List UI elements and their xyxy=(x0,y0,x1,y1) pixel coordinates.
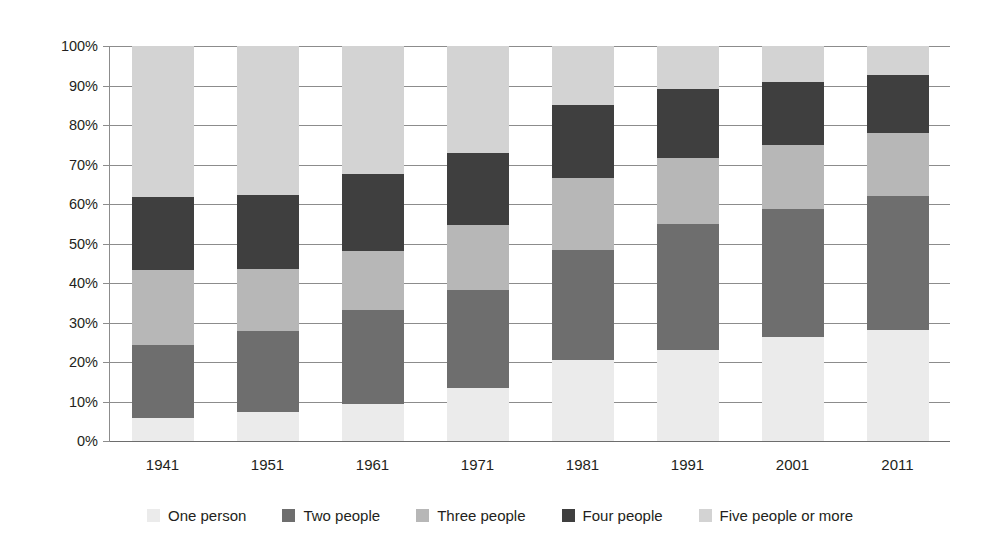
bar-segment xyxy=(657,350,719,441)
bar-segment xyxy=(132,418,194,441)
y-axis-tick-label: 60% xyxy=(42,197,98,212)
bar-1971[interactable] xyxy=(447,46,509,441)
bar-segment xyxy=(447,153,509,225)
legend-item-0[interactable]: One person xyxy=(147,507,246,524)
x-axis-tick-label: 1971 xyxy=(433,452,523,478)
bar-segment xyxy=(867,196,929,330)
y-axis-tick-label: 100% xyxy=(42,39,98,54)
legend-item-1[interactable]: Two people xyxy=(282,507,380,524)
legend-label: Three people xyxy=(437,507,525,524)
bar-1941[interactable] xyxy=(132,46,194,441)
bar-segment xyxy=(552,250,614,360)
bar-1961[interactable] xyxy=(342,46,404,441)
x-axis-labels: 19411951196119711981199120012011 xyxy=(110,452,950,478)
y-axis-tick-label: 80% xyxy=(42,118,98,133)
bar-segment xyxy=(132,197,194,270)
legend-swatch-icon xyxy=(699,509,712,522)
bar-1991[interactable] xyxy=(657,46,719,441)
y-axis-labels: 0%10%20%30%40%50%60%70%80%90%100% xyxy=(36,46,98,441)
bar-2001[interactable] xyxy=(762,46,824,441)
bar-segment xyxy=(342,174,404,251)
tick-mark-80 xyxy=(103,125,110,126)
legend-label: One person xyxy=(168,507,246,524)
legend-swatch-icon xyxy=(282,509,295,522)
bar-segment xyxy=(447,46,509,153)
bar-segment xyxy=(552,105,614,178)
bar-segment xyxy=(132,270,194,345)
legend-label: Four people xyxy=(583,507,663,524)
bar-segment xyxy=(867,330,929,441)
tick-mark-0 xyxy=(103,441,110,442)
x-axis-tick-label: 1941 xyxy=(118,452,208,478)
bar-segment xyxy=(447,388,509,441)
bar-segment xyxy=(447,290,509,388)
bar-segment xyxy=(867,46,929,75)
tick-mark-40 xyxy=(103,283,110,284)
x-axis-tick-label: 1991 xyxy=(643,452,733,478)
bar-segment xyxy=(447,225,509,290)
tick-mark-60 xyxy=(103,204,110,205)
tick-mark-30 xyxy=(103,323,110,324)
bar-segment xyxy=(237,195,299,270)
tick-mark-20 xyxy=(103,362,110,363)
tick-mark-90 xyxy=(103,86,110,87)
bar-segment xyxy=(342,310,404,404)
bar-segment xyxy=(762,82,824,145)
legend-label: Two people xyxy=(303,507,380,524)
bar-segment xyxy=(762,209,824,337)
bar-1981[interactable] xyxy=(552,46,614,441)
tick-mark-100 xyxy=(103,46,110,47)
bar-segment xyxy=(657,158,719,224)
legend-label: Five people or more xyxy=(720,507,853,524)
y-axis-tick-label: 0% xyxy=(42,434,98,449)
bar-segment xyxy=(867,75,929,133)
bar-segment xyxy=(552,46,614,105)
tick-mark-70 xyxy=(103,165,110,166)
bar-segment xyxy=(342,251,404,310)
gridline-0 xyxy=(110,441,950,442)
bar-segment xyxy=(657,46,719,89)
bar-segment xyxy=(237,46,299,195)
legend-item-2[interactable]: Three people xyxy=(416,507,525,524)
legend-swatch-icon xyxy=(416,509,429,522)
y-axis-tick-label: 50% xyxy=(42,236,98,251)
bar-segment xyxy=(657,224,719,350)
bar-segment xyxy=(552,178,614,250)
bar-1951[interactable] xyxy=(237,46,299,441)
bar-segment xyxy=(132,345,194,418)
bar-segment xyxy=(342,46,404,174)
bar-segment xyxy=(762,337,824,441)
bar-segment xyxy=(657,89,719,158)
chart-legend: One personTwo peopleThree peopleFour peo… xyxy=(0,500,1000,530)
x-axis-tick-label: 1961 xyxy=(328,452,418,478)
x-axis-tick-label: 2001 xyxy=(748,452,838,478)
bar-segment xyxy=(132,46,194,197)
bar-segment xyxy=(762,145,824,209)
stacked-bar-chart: 0%10%20%30%40%50%60%70%80%90%100% 194119… xyxy=(0,0,1000,560)
bar-2011[interactable] xyxy=(867,46,929,441)
bar-segment xyxy=(342,404,404,441)
legend-swatch-icon xyxy=(147,509,160,522)
bar-segment xyxy=(867,133,929,196)
bar-segment xyxy=(237,412,299,441)
y-axis-tick-label: 90% xyxy=(42,78,98,93)
x-axis-tick-label: 1981 xyxy=(538,452,628,478)
y-axis-tick-label: 10% xyxy=(42,394,98,409)
y-axis-tick-label: 70% xyxy=(42,157,98,172)
bars-layer xyxy=(110,46,950,441)
y-axis-tick-label: 30% xyxy=(42,315,98,330)
legend-item-3[interactable]: Four people xyxy=(562,507,663,524)
legend-item-4[interactable]: Five people or more xyxy=(699,507,853,524)
bar-segment xyxy=(762,46,824,82)
y-axis-tick-label: 40% xyxy=(42,276,98,291)
tick-mark-50 xyxy=(103,244,110,245)
tick-mark-10 xyxy=(103,402,110,403)
x-axis-tick-label: 2011 xyxy=(853,452,943,478)
bar-segment xyxy=(237,269,299,331)
bar-segment xyxy=(237,331,299,412)
y-axis-tick-label: 20% xyxy=(42,355,98,370)
legend-swatch-icon xyxy=(562,509,575,522)
bar-segment xyxy=(552,360,614,441)
x-axis-tick-label: 1951 xyxy=(223,452,313,478)
